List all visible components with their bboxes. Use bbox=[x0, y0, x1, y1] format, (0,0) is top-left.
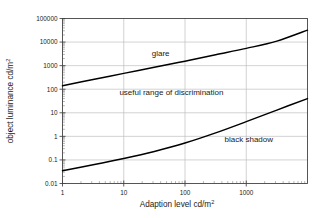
y-tick-label: 1000 bbox=[43, 62, 58, 69]
x-tick-label: 1 bbox=[61, 189, 65, 196]
y-tick-label: 0.01 bbox=[45, 180, 58, 187]
x-axis-title: Adaption level cd/m2 bbox=[140, 199, 215, 209]
annotation-glare: glare bbox=[152, 49, 170, 58]
chart-container: 1101001000 1000001000010001001010.10.01 … bbox=[0, 0, 318, 218]
y-tick-label: 1 bbox=[54, 133, 58, 140]
y-tick-label: 100 bbox=[47, 86, 58, 93]
y-tick-label: 100000 bbox=[36, 15, 58, 22]
y-tick-label: 0.1 bbox=[49, 156, 58, 163]
annotation-black-shadow: black shadow bbox=[225, 135, 274, 144]
luminance-adaption-log-chart: 1101001000 1000001000010001001010.10.01 … bbox=[0, 0, 318, 218]
annotation-useful-range: useful range of discrimination bbox=[119, 88, 223, 97]
x-tick-label: 1000 bbox=[239, 189, 254, 196]
x-tick-label: 10 bbox=[120, 189, 128, 196]
x-tick-label: 100 bbox=[180, 189, 191, 196]
y-axis-title: object luminance cd/m2 bbox=[5, 59, 15, 144]
y-tick-label: 10000 bbox=[40, 38, 58, 45]
y-tick-label: 10 bbox=[50, 109, 58, 116]
